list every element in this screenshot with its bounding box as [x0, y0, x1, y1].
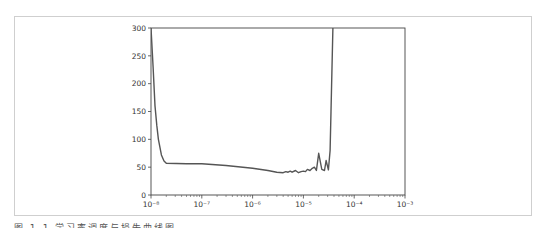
loss-curve [151, 28, 333, 173]
y-tick-label: 0 [141, 191, 146, 200]
figure-caption: 图 1-1 学习率调度与损失曲线图 [14, 221, 176, 228]
y-tick-label: 100 [132, 135, 147, 144]
lr-loss-chart: 05010015020025030010⁻⁸10⁻⁷10⁻⁶10⁻⁵10⁻⁴10… [0, 0, 542, 228]
y-tick-label: 300 [132, 24, 147, 33]
x-tick-label: 10⁻⁷ [194, 200, 211, 209]
y-tick-label: 200 [132, 79, 147, 88]
x-tick-label: 10⁻⁶ [244, 200, 261, 209]
y-tick-label: 250 [132, 52, 147, 61]
ticks: 05010015020025030010⁻⁸10⁻⁷10⁻⁶10⁻⁵10⁻⁴10… [132, 24, 414, 209]
x-tick-label: 10⁻³ [397, 200, 414, 209]
y-tick-label: 150 [132, 107, 147, 116]
series [151, 28, 333, 173]
x-tick-label: 10⁻⁵ [295, 200, 312, 209]
axes [151, 28, 405, 195]
x-tick-label: 10⁻⁴ [346, 200, 363, 209]
x-tick-label: 10⁻⁸ [143, 200, 160, 209]
y-tick-label: 50 [136, 163, 146, 172]
plot-area-border [151, 28, 405, 195]
